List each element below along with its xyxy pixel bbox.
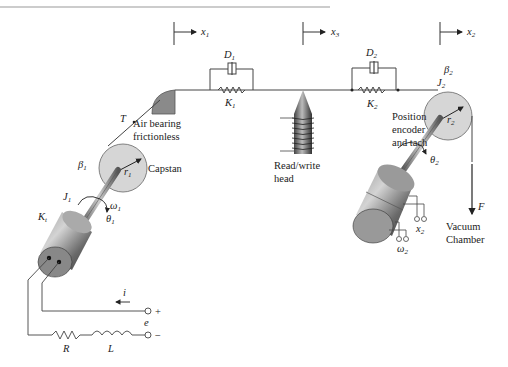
- svg-text:head: head: [274, 173, 295, 184]
- svg-text:i: i: [123, 287, 126, 298]
- svg-text:ω2: ω2: [397, 243, 408, 256]
- svg-text:D1: D1: [223, 49, 235, 62]
- svg-text:ω1: ω1: [110, 200, 121, 213]
- position-encoder: x2 ω2 Position encoder and tach: [353, 111, 428, 256]
- svg-text:Kt: Kt: [37, 211, 48, 224]
- svg-text:Chamber: Chamber: [446, 234, 485, 245]
- svg-text:θ2: θ2: [430, 154, 439, 167]
- svg-text:and tach: and tach: [392, 137, 428, 148]
- svg-text:−: −: [155, 330, 161, 341]
- svg-text:Capstan: Capstan: [148, 163, 183, 174]
- damper-spring-1: D1 K1: [210, 49, 253, 110]
- svg-text:x2: x2: [415, 223, 425, 236]
- air-bearing: Air bearing frictionless: [133, 90, 182, 142]
- reference-x1: x1: [174, 22, 209, 45]
- terminal-plus: [145, 308, 151, 314]
- svg-text:F: F: [477, 201, 485, 212]
- svg-text:x3: x3: [330, 26, 340, 39]
- reference-x3: x3: [303, 22, 340, 45]
- svg-text:K2: K2: [366, 98, 378, 111]
- svg-text:L: L: [107, 343, 114, 354]
- svg-text:D2: D2: [365, 47, 378, 60]
- svg-text:T: T: [120, 113, 127, 124]
- capstan: r1 Capstan β1: [77, 144, 183, 192]
- svg-text:x1: x1: [200, 26, 209, 39]
- svg-text:K1: K1: [224, 97, 236, 110]
- svg-text:J2: J2: [437, 77, 446, 90]
- svg-text:θ1: θ1: [106, 213, 115, 226]
- svg-text:Read/write: Read/write: [274, 160, 320, 171]
- svg-text:e: e: [144, 317, 149, 328]
- svg-text:R: R: [62, 343, 70, 354]
- svg-text:Vacuum: Vacuum: [446, 221, 480, 232]
- svg-text:Air bearing: Air bearing: [133, 118, 182, 129]
- terminal-minus: [145, 332, 151, 338]
- svg-text:J1: J1: [63, 191, 71, 204]
- svg-text:β1: β1: [77, 159, 87, 172]
- svg-text:frictionless: frictionless: [133, 131, 180, 142]
- tape-drive-diagram: x1 x3 x2 D1 K1 D2 K2 Air bearing frictio…: [0, 0, 508, 367]
- svg-text:+: +: [155, 306, 161, 317]
- svg-text:x2: x2: [466, 26, 476, 39]
- svg-text:Position: Position: [392, 111, 427, 122]
- svg-text:encoder: encoder: [392, 124, 426, 135]
- svg-text:β2: β2: [443, 64, 453, 77]
- reference-x2: x2: [440, 22, 476, 45]
- read-write-head: Read/write head: [274, 90, 320, 184]
- damper-spring-2: D2 K2: [351, 47, 400, 111]
